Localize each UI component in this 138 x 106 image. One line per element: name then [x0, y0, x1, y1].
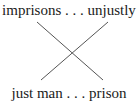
line-imprisons-to-prison — [37, 22, 103, 80]
line-unjustly-to-just-man — [41, 22, 108, 80]
bottom-phrase: just man . . . prison — [0, 86, 138, 101]
